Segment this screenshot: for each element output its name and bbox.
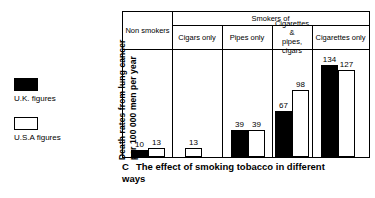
legend-swatch-usa [14, 117, 38, 130]
bar-non-smokers-uk: 10 [131, 150, 148, 157]
bar-cigars-only-usa: 13 [185, 148, 202, 157]
header-cell-cigars-only-line1: Cigars only [178, 33, 216, 42]
bar-label-pipes-only-usa: 39 [252, 120, 261, 129]
chart-figure: U.K. figures U.S.A figures Death rates f… [0, 0, 375, 198]
bar-pipes-only-usa: 39 [248, 130, 265, 157]
bar-label-pipes-only-uk: 39 [235, 120, 244, 129]
header-cell-cigarettes-only: Cigarettes only [312, 25, 369, 49]
header-cell-non-smokers: Non smokers [123, 12, 172, 49]
bar-label-cigarettes-only-uk: 134 [323, 55, 336, 64]
legend-label-uk: U.K. figures [14, 94, 61, 104]
header-group-smokers-of: Smokers of [172, 12, 369, 25]
legend-swatch-uk [14, 78, 38, 91]
bar-label-cigars-only-usa: 13 [189, 138, 198, 147]
bar-group-non-smokers: 10 13 [123, 47, 172, 157]
bar-cigarettes-pipes-cigars-uk: 67 [275, 111, 292, 157]
header-cell-cigarettes-only-line1: Cigarettes only [315, 33, 365, 42]
legend-label-usa: U.S.A figures [14, 133, 61, 143]
bar-group-cigarettes-pipes-cigars: 67 98 [272, 47, 312, 157]
bar-label-cigarettes-pipes-cigars-usa: 98 [296, 80, 305, 89]
chart-frame: Non smokers Smokers of Cigars only Pipes… [122, 11, 370, 158]
legend: U.K. figures U.S.A figures [14, 78, 61, 156]
bar-cigarettes-only-usa: 127 [338, 70, 355, 157]
plot-area: 10 13 13 39 [123, 49, 369, 157]
bar-label-cigarettes-only-usa: 127 [340, 60, 353, 69]
bar-cigarettes-pipes-cigars-usa: 98 [292, 90, 309, 157]
bar-label-non-smokers-uk: 10 [135, 140, 144, 149]
figure-caption: CThe effect of smoking tobacco in differ… [122, 161, 332, 185]
figure-caption-letter: C [122, 161, 129, 172]
bar-cigarettes-only-uk: 134 [321, 65, 338, 157]
bar-label-cigarettes-pipes-cigars-uk: 67 [279, 101, 288, 110]
bar-non-smokers-usa: 13 [148, 148, 165, 157]
header-cell-pipes-only-line1: Pipes only [230, 33, 265, 42]
header-cell-pipes-only: Pipes only [222, 25, 272, 49]
bar-pipes-only-uk: 39 [231, 130, 248, 157]
bar-group-cigarettes-only: 134 127 [312, 47, 369, 157]
header-cell-cigarettes-pipes-cigars: Cigarettes & pipes, cigars [272, 25, 312, 49]
bar-label-non-smokers-usa: 13 [152, 138, 161, 147]
header-cell-cigarettes-pipes-cigars-line1: Cigarettes & [272, 19, 312, 37]
bar-group-cigars-only: 13 [172, 47, 222, 157]
header-cell-cigars-only: Cigars only [172, 25, 222, 49]
figure-caption-text: The effect of smoking tobacco in differe… [122, 161, 325, 184]
bar-group-pipes-only: 39 39 [222, 47, 272, 157]
legend-item-uk: U.K. figures [14, 78, 61, 104]
legend-item-usa: U.S.A figures [14, 117, 61, 143]
y-axis-title: Death rates from lung cancer per 100 000… [93, 8, 117, 160]
